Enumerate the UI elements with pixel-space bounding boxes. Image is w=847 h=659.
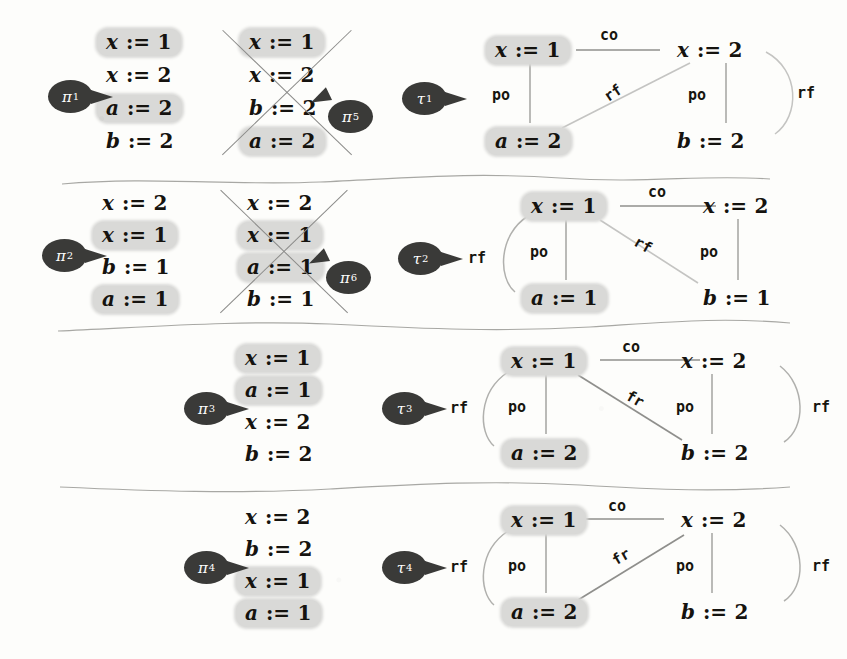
graph-node-tl: x := 1 bbox=[522, 193, 606, 220]
badge-symbol: τ bbox=[397, 400, 405, 418]
crossed-out-marker bbox=[220, 188, 348, 314]
trace-step: a := 1 bbox=[236, 377, 321, 404]
trace-badge-pi-5[interactable]: π5 bbox=[328, 100, 373, 133]
trace-step: x := 1 bbox=[93, 222, 177, 249]
step-val: 2 bbox=[154, 191, 168, 215]
step-var: a bbox=[245, 601, 258, 625]
step-op: := bbox=[126, 30, 150, 54]
step-op: := bbox=[265, 569, 289, 593]
step-val: 1 bbox=[298, 378, 312, 402]
graph-node-br: b := 2 bbox=[668, 128, 754, 155]
node-val: 2 bbox=[564, 441, 578, 465]
node-var: a bbox=[511, 600, 524, 624]
badge-subscript: 1 bbox=[73, 91, 79, 102]
graph-node-tr: x := 2 bbox=[672, 348, 756, 375]
step-op: := bbox=[267, 442, 291, 466]
step-op: := bbox=[127, 96, 151, 120]
edge-label-rf-outer: rf bbox=[450, 558, 468, 576]
trace-step: x := 2 bbox=[93, 190, 177, 217]
graph-node-bl: a := 2 bbox=[486, 128, 571, 155]
edge-label-rf-arc: rf bbox=[812, 557, 830, 575]
node-op: := bbox=[531, 508, 555, 532]
step-var: b bbox=[106, 129, 120, 153]
step-var: a bbox=[102, 287, 115, 311]
node-var: b bbox=[703, 286, 717, 310]
badge-symbol: π bbox=[198, 400, 208, 418]
graph-node-tr: x := 2 bbox=[672, 507, 756, 534]
edge-label-rf-diagonal: rf bbox=[631, 233, 656, 258]
node-op: := bbox=[551, 194, 575, 218]
node-var: a bbox=[495, 129, 508, 153]
graph-node-tl: x := 1 bbox=[502, 507, 586, 534]
step-var: x bbox=[102, 191, 114, 215]
node-op: := bbox=[703, 600, 727, 624]
step-val: 2 bbox=[160, 129, 174, 153]
node-val: 2 bbox=[564, 600, 578, 624]
node-var: x bbox=[681, 508, 693, 532]
badge-subscript: 5 bbox=[353, 111, 359, 122]
step-op: := bbox=[126, 63, 150, 87]
step-var: x bbox=[245, 346, 257, 370]
trace-step: b := 2 bbox=[97, 128, 183, 155]
badge-pointer-icon bbox=[227, 402, 249, 416]
step-op: := bbox=[123, 287, 147, 311]
trace-step: b := 2 bbox=[236, 441, 322, 468]
node-op: := bbox=[725, 286, 749, 310]
trace-step: b := 2 bbox=[236, 536, 322, 563]
node-var: x bbox=[703, 194, 715, 218]
graph-node-br: b := 2 bbox=[672, 440, 758, 467]
node-op: := bbox=[532, 441, 556, 465]
edge-label-co: co bbox=[622, 338, 640, 356]
node-val: 2 bbox=[733, 508, 747, 532]
node-val: 2 bbox=[729, 38, 743, 62]
graph-node-tr: x := 2 bbox=[668, 37, 752, 64]
trace-badge-pi-3[interactable]: π3 bbox=[184, 392, 229, 425]
edge-label-po-left: po bbox=[508, 557, 526, 575]
badge-symbol: τ bbox=[397, 559, 405, 577]
graph-node-tl: x := 1 bbox=[502, 348, 586, 375]
step-val: 1 bbox=[154, 223, 168, 247]
trace-step: x := 2 bbox=[97, 62, 181, 89]
step-op: := bbox=[266, 601, 290, 625]
trace-badge-pi-6[interactable]: π6 bbox=[326, 261, 371, 294]
step-op: := bbox=[265, 346, 289, 370]
node-var: a bbox=[531, 286, 544, 310]
badge-subscript: 2 bbox=[67, 250, 73, 261]
graph-node-tr: x := 2 bbox=[694, 193, 778, 220]
edge-label-co: co bbox=[648, 183, 666, 201]
step-var: b bbox=[245, 442, 259, 466]
node-op: := bbox=[701, 349, 725, 373]
node-var: b bbox=[677, 129, 691, 153]
trace-badge-pi-1[interactable]: π1 bbox=[48, 80, 93, 113]
node-op: := bbox=[515, 38, 539, 62]
step-op: := bbox=[267, 537, 291, 561]
step-val: 2 bbox=[297, 505, 311, 529]
edge-label-rf-outer: rf bbox=[468, 249, 486, 267]
trace-badge-pi-4[interactable]: π4 bbox=[184, 551, 229, 584]
step-val: 1 bbox=[298, 601, 312, 625]
badge-pointer-icon bbox=[425, 402, 447, 416]
graph-badge-tau-2[interactable]: τ2 bbox=[398, 242, 443, 275]
node-val: 1 bbox=[563, 349, 577, 373]
node-var: x bbox=[677, 38, 689, 62]
graph-node-tl: x := 1 bbox=[486, 37, 570, 64]
step-val: 1 bbox=[297, 569, 311, 593]
trace-step: x := 1 bbox=[236, 345, 320, 372]
badge-subscript: 3 bbox=[209, 403, 215, 414]
badge-symbol: τ bbox=[413, 250, 421, 268]
step-op: := bbox=[128, 129, 152, 153]
graph-badge-tau-1[interactable]: τ1 bbox=[402, 82, 447, 115]
node-val: 1 bbox=[563, 508, 577, 532]
node-op: := bbox=[699, 129, 723, 153]
badge-subscript: 4 bbox=[406, 562, 412, 573]
node-op: := bbox=[703, 441, 727, 465]
graph-node-br: b := 2 bbox=[672, 599, 758, 626]
node-val: 1 bbox=[583, 194, 597, 218]
step-var: x bbox=[102, 223, 114, 247]
graph-badge-tau-4[interactable]: τ4 bbox=[382, 551, 427, 584]
badge-symbol: π bbox=[342, 108, 352, 126]
trace-badge-pi-2[interactable]: π2 bbox=[42, 239, 87, 272]
badge-symbol: π bbox=[62, 88, 72, 106]
graph-badge-tau-3[interactable]: τ3 bbox=[382, 392, 427, 425]
node-var: x bbox=[511, 508, 523, 532]
